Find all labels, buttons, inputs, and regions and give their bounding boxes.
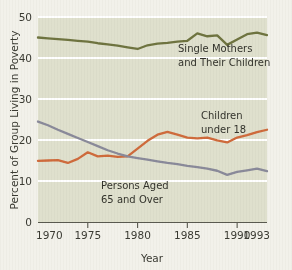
series-label-elderly-line2: 65 and Over — [101, 194, 164, 205]
series-label-single-mothers-line2: and Their Children — [178, 57, 270, 68]
x-tick-label-1970: 1970 — [36, 229, 63, 241]
y-tick-label-20: 20 — [19, 134, 32, 146]
poverty-line-chart: 01020304050 197019751980198519901993 Per… — [0, 0, 292, 270]
x-tick-label-1985: 1985 — [174, 229, 201, 241]
y-axis-title: Percent of Group Living in Poverty — [8, 31, 20, 210]
y-tick-label-50: 50 — [19, 11, 32, 23]
x-tick-label-1980: 1980 — [124, 229, 151, 241]
y-tick-label-30: 30 — [19, 93, 32, 105]
series-label-single-mothers-line1: Single Mothers — [178, 43, 252, 54]
y-tick-label-0: 0 — [25, 216, 32, 228]
x-tick-label-1993: 1993 — [243, 229, 270, 241]
chart-canvas: 01020304050 197019751980198519901993 Per… — [0, 0, 292, 270]
x-tick-label-1975: 1975 — [74, 229, 101, 241]
series-label-children-line2: under 18 — [201, 124, 246, 135]
y-tick-label-40: 40 — [19, 52, 32, 64]
series-label-children-line1: Children — [201, 110, 243, 121]
x-axis-title: Year — [140, 252, 164, 264]
series-label-elderly-line1: Persons Aged — [101, 180, 169, 191]
y-tick-label-10: 10 — [19, 175, 32, 187]
